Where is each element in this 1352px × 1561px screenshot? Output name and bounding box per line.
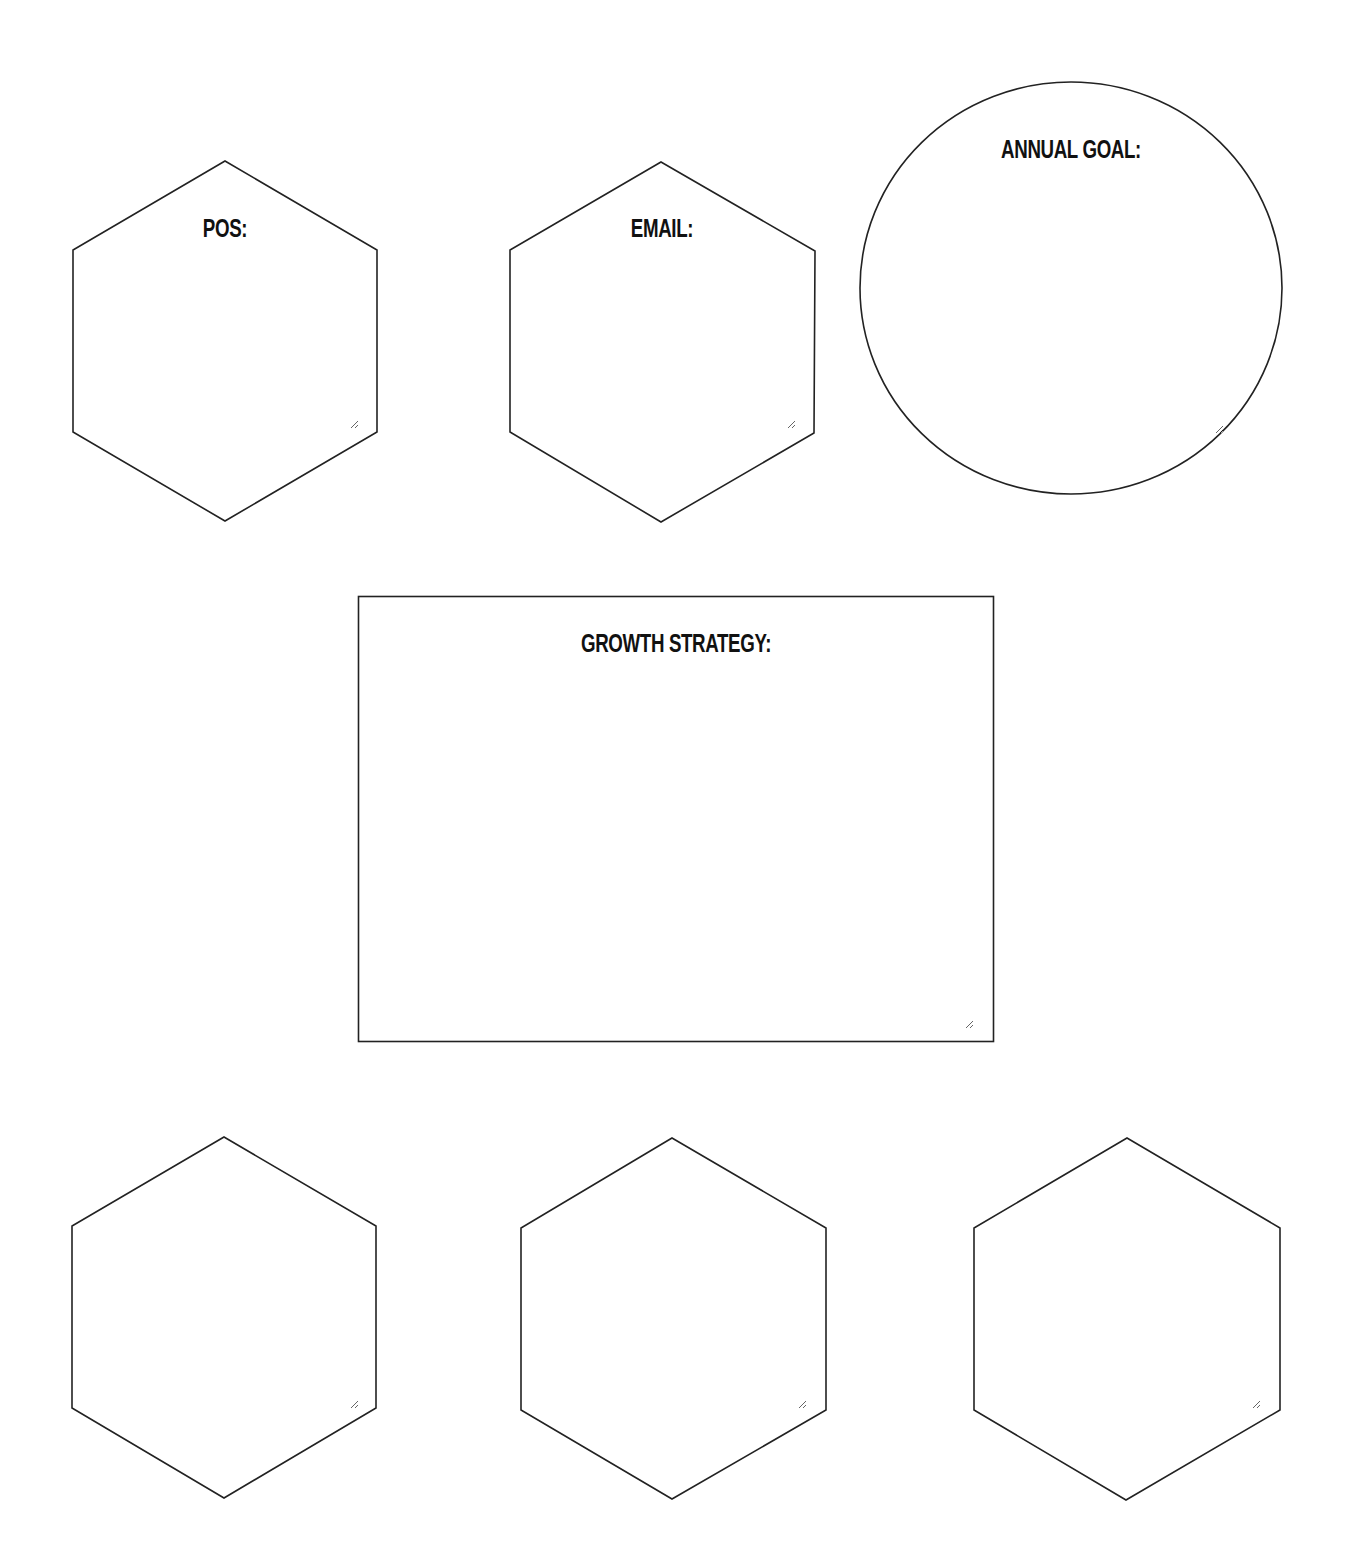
bottom-hexagon-3-input[interactable] [997, 1230, 1261, 1409]
pos-input[interactable] [95, 255, 359, 429]
growth-strategy-input[interactable] [380, 675, 974, 1029]
email-label: EMAIL: [554, 213, 770, 243]
email-input[interactable] [532, 255, 796, 429]
bottom-hexagon-1-input[interactable] [95, 1230, 359, 1409]
annual-goal-label: ANNUAL GOAL: [963, 134, 1179, 164]
bottom-hexagon-2-input[interactable] [543, 1230, 807, 1409]
pos-label: POS: [117, 213, 333, 243]
growth-strategy-label: GROWTH STRATEGY: [568, 628, 784, 658]
annual-goal-input[interactable] [920, 180, 1224, 434]
